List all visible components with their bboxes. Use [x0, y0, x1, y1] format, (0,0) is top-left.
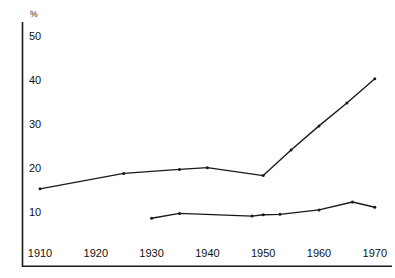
data-point-marker: [178, 168, 181, 171]
y-tick-label: 30: [29, 119, 41, 130]
x-tick-label: 1950: [251, 248, 275, 259]
data-point-marker: [373, 77, 376, 80]
data-point-marker: [39, 187, 42, 190]
data-point-marker: [290, 149, 293, 152]
series-lower-series: [150, 201, 376, 220]
line-chart: % 1020304050 191019201930194019501960197…: [0, 0, 395, 278]
data-point-marker: [318, 208, 321, 211]
y-tick-label: 10: [29, 207, 41, 218]
data-point-marker: [122, 172, 125, 175]
x-tick-label: 1960: [307, 248, 331, 259]
y-tick-label: 40: [29, 75, 41, 86]
x-tick-label: 1920: [84, 248, 108, 259]
data-point-marker: [351, 201, 354, 204]
x-tick-label: 1940: [195, 248, 219, 259]
data-point-marker: [262, 174, 265, 177]
series-layer: [39, 77, 377, 219]
data-point-marker: [278, 213, 281, 216]
series-upper-series: [39, 77, 377, 190]
plot-area: [0, 0, 395, 278]
data-point-marker: [373, 206, 376, 209]
x-tick-label: 1930: [139, 248, 163, 259]
data-point-marker: [251, 215, 254, 218]
data-point-marker: [206, 166, 209, 169]
data-point-marker: [318, 124, 321, 127]
data-point-marker: [262, 213, 265, 216]
data-point-marker: [150, 217, 153, 220]
axis-lines: [22, 22, 392, 267]
y-tick-label: 20: [29, 163, 41, 174]
data-point-marker: [345, 102, 348, 105]
y-tick-label: 50: [29, 31, 41, 42]
data-point-marker: [178, 212, 181, 215]
x-tick-label: 1910: [28, 248, 52, 259]
series-line: [40, 79, 375, 189]
x-tick-label: 1970: [363, 248, 387, 259]
